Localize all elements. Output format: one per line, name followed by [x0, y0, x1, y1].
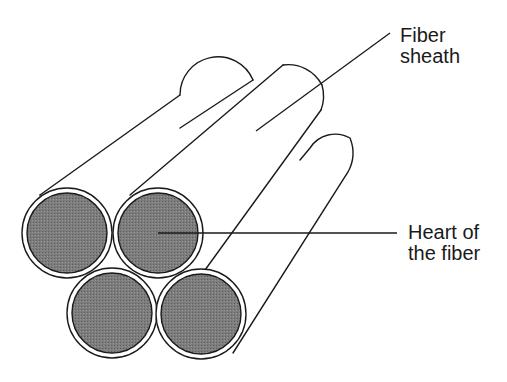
fiber-bottom-left	[67, 268, 157, 358]
sheath-leader-line	[256, 33, 390, 131]
tube-back-right	[233, 134, 353, 353]
fiber-bottom-right	[156, 269, 246, 359]
sheath-label-line2: sheath	[400, 46, 460, 67]
heart-label-line1: Heart of	[408, 222, 480, 243]
sheath-label: Fiber sheath	[400, 25, 460, 67]
heart-label: Heart of the fiber	[408, 222, 480, 264]
fiber-top-left	[22, 188, 112, 278]
tube-back-left	[40, 57, 253, 195]
sheath-label-line1: Fiber	[400, 25, 460, 46]
heart-label-line2: the fiber	[408, 243, 480, 264]
